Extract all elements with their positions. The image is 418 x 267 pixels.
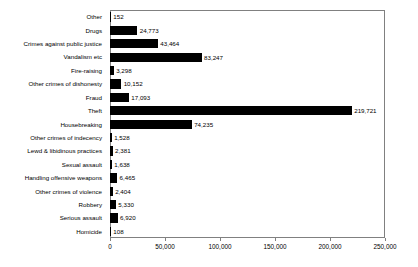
category-label: Robbery (0, 201, 102, 208)
category-label: Vandalism etc (0, 53, 102, 60)
x-axis-tick (330, 238, 331, 241)
bar-row: 1,528 (110, 131, 385, 145)
bar-value-label: 6,920 (118, 213, 136, 222)
bar-row: 2,404 (110, 184, 385, 198)
bar (110, 106, 352, 115)
x-axis-tick (220, 238, 221, 241)
bar-row: 1,638 (110, 158, 385, 172)
x-axis: 050,000100,000150,000200,000250,000 (110, 238, 385, 266)
bar-value-label: 1,638 (112, 160, 130, 169)
bar-row: 17,093 (110, 90, 385, 104)
bar-value-label: 1,528 (112, 133, 130, 142)
bar-row: 10,152 (110, 77, 385, 91)
category-label: Fraud (0, 94, 102, 101)
category-label: Housebreaking (0, 121, 102, 128)
bar-value-label: 5,330 (116, 200, 134, 209)
bar-value-label: 3,298 (114, 66, 132, 75)
x-axis-tick-label: 150,000 (263, 243, 286, 251)
category-label: Serious assault (0, 214, 102, 221)
category-label: Theft (0, 107, 102, 114)
bar-row: 5,330 (110, 198, 385, 212)
category-axis-labels: OtherDrugsCrimes against public justiceV… (0, 10, 106, 238)
x-axis-tick-label: 50,000 (155, 243, 175, 251)
bar (110, 213, 118, 222)
bar-value-label: 43,464 (158, 39, 179, 48)
bar (110, 173, 117, 182)
x-axis-tick-label: 100,000 (208, 243, 231, 251)
bar (110, 79, 121, 88)
bar-value-label: 74,235 (192, 120, 213, 129)
category-label: Handling offensive weapons (0, 174, 102, 181)
bar-value-label: 83,247 (202, 53, 223, 62)
x-axis-tick-label: 0 (108, 243, 112, 251)
bar-value-label: 152 (111, 12, 124, 21)
category-label: Lewd & libidinous practices (0, 147, 102, 154)
category-label: Other crimes of dishonesty (0, 80, 102, 87)
bar-row: 74,235 (110, 117, 385, 131)
bar-value-label: 10,152 (121, 79, 142, 88)
bar (110, 39, 158, 48)
bar-value-label: 108 (111, 227, 124, 236)
bar-row: 152 (110, 10, 385, 24)
bar-row: 43,464 (110, 37, 385, 51)
bar-value-label: 219,721 (352, 106, 377, 115)
bar (110, 120, 192, 129)
x-axis-tick-label: 200,000 (318, 243, 341, 251)
bar-row: 2,381 (110, 144, 385, 158)
category-label: Fire-raising (0, 67, 102, 74)
bar-value-label: 17,093 (129, 93, 150, 102)
x-axis-tick (110, 238, 111, 241)
x-axis-tick (165, 238, 166, 241)
category-label: Sexual assault (0, 161, 102, 168)
bar-row: 6,920 (110, 211, 385, 225)
bar-row: 24,773 (110, 23, 385, 37)
bar (110, 26, 137, 35)
category-label: Other crimes of indecency (0, 134, 102, 141)
x-axis-tick (385, 238, 386, 241)
category-label: Other (0, 13, 102, 20)
bar (110, 53, 202, 62)
bar-chart: OtherDrugsCrimes against public justiceV… (0, 0, 418, 267)
bar-row: 3,298 (110, 64, 385, 78)
category-label: Crimes against public justice (0, 40, 102, 47)
bar-row: 6,465 (110, 171, 385, 185)
bar-row: 83,247 (110, 50, 385, 64)
category-label: Homicide (0, 228, 102, 235)
bar-value-label: 24,773 (137, 26, 158, 35)
bar-row: 108 (110, 225, 385, 239)
category-label: Drugs (0, 27, 102, 34)
bar-value-label: 2,381 (113, 146, 131, 155)
x-axis-tick-label: 250,000 (373, 243, 396, 251)
bar-row: 219,721 (110, 104, 385, 118)
bars-layer: 15224,77343,46483,2473,29810,15217,09321… (110, 10, 385, 238)
bar (110, 93, 129, 102)
bar-value-label: 2,404 (113, 187, 131, 196)
category-label: Other crimes of violence (0, 188, 102, 195)
x-axis-tick (275, 238, 276, 241)
bar-value-label: 6,465 (117, 173, 135, 182)
